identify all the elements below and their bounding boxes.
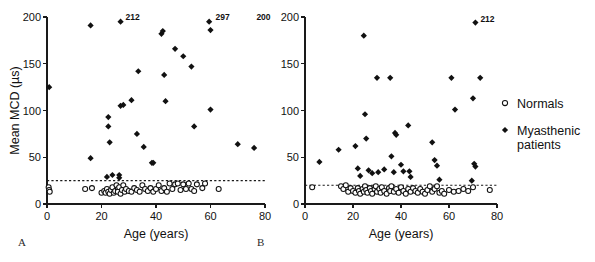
panel-letter-b: B <box>257 236 264 248</box>
x-tick-label: 80 <box>491 210 503 222</box>
data-point-myasthenic <box>104 174 110 180</box>
data-point-myasthenic <box>117 19 123 25</box>
data-point-normal <box>194 182 199 187</box>
point-annotation: 212 <box>480 14 494 24</box>
data-point-myasthenic <box>188 63 194 69</box>
data-point-myasthenic <box>469 178 475 184</box>
y-tick-label: 150 <box>23 58 41 70</box>
data-point-myasthenic <box>406 168 412 174</box>
data-point-normal <box>461 187 466 192</box>
data-point-myasthenic <box>391 169 397 175</box>
data-point-myasthenic <box>374 75 380 81</box>
data-point-normal <box>203 181 208 186</box>
series-myasthenic <box>316 20 483 184</box>
data-point-myasthenic <box>172 46 178 52</box>
data-point-myasthenic <box>141 144 147 150</box>
panel-letter-a: A <box>18 236 26 248</box>
data-point-myasthenic <box>207 106 213 112</box>
data-point-myasthenic <box>361 33 367 39</box>
panel-a: 050100150200020406080212297200Age (years… <box>8 11 271 241</box>
x-tick-label: 80 <box>259 210 271 222</box>
data-point-normal <box>186 181 191 186</box>
data-point-normal <box>181 182 186 187</box>
data-point-myasthenic <box>405 122 411 128</box>
data-point-normal <box>216 187 221 192</box>
y-axis-title: Mean MCD (µs) <box>8 66 22 154</box>
y-tick-label: 0 <box>293 198 299 210</box>
data-point-myasthenic <box>180 53 186 59</box>
data-point-normal <box>466 188 471 193</box>
data-point-myasthenic <box>408 174 414 180</box>
y-tick-label: 100 <box>23 105 41 117</box>
point-annotation: 200 <box>256 12 270 22</box>
data-point-myasthenic <box>316 159 322 165</box>
panel-b: 050100150200020406080212Age (years) <box>281 11 503 241</box>
data-point-myasthenic <box>128 97 134 103</box>
data-point-normal <box>447 187 452 192</box>
data-point-myasthenic <box>207 27 213 33</box>
x-axis-title: Age (years) <box>369 227 434 241</box>
data-point-myasthenic <box>470 95 476 101</box>
data-point-myasthenic <box>375 169 381 175</box>
legend-label-normals: Normals <box>517 97 564 111</box>
data-point-myasthenic <box>387 75 393 81</box>
legend-label-myasthenic-line2: patients <box>517 138 561 152</box>
data-point-myasthenic <box>107 139 113 145</box>
data-point-myasthenic <box>472 20 478 26</box>
x-axis-title: Age (years) <box>124 227 189 241</box>
data-point-normal <box>167 181 172 186</box>
y-tick-label: 200 <box>23 11 41 23</box>
y-tick-label: 200 <box>281 11 299 23</box>
data-point-normal <box>471 185 476 190</box>
data-point-myasthenic <box>355 165 361 171</box>
data-point-normal <box>310 185 315 190</box>
data-point-normal <box>200 186 205 191</box>
x-tick-label: 40 <box>150 210 162 222</box>
data-point-normal <box>451 189 456 194</box>
data-point-myasthenic <box>336 147 342 153</box>
y-tick-label: 0 <box>35 198 41 210</box>
y-tick-label: 100 <box>281 105 299 117</box>
data-point-myasthenic <box>381 166 387 172</box>
data-point-myasthenic <box>105 123 111 129</box>
legend-label-myasthenic: Myasthenic <box>517 124 580 138</box>
y-tick-label: 150 <box>281 58 299 70</box>
x-tick-label: 0 <box>44 210 50 222</box>
data-point-myasthenic <box>357 173 363 179</box>
data-point-normal <box>178 187 183 192</box>
y-tick-label: 50 <box>29 151 41 163</box>
series-myasthenic <box>46 19 257 181</box>
data-point-normal <box>183 187 188 192</box>
data-point-normal <box>156 183 161 188</box>
x-tick-label: 60 <box>443 210 455 222</box>
point-annotation: 297 <box>216 12 230 22</box>
data-point-normal <box>487 187 492 192</box>
x-tick-label: 20 <box>347 210 359 222</box>
x-tick-label: 20 <box>95 210 107 222</box>
data-point-normal <box>389 184 394 189</box>
data-point-normal <box>47 189 52 194</box>
legend-marker-myasthenic <box>502 127 508 133</box>
data-point-myasthenic <box>135 68 141 74</box>
data-point-myasthenic <box>109 172 115 178</box>
data-point-normal <box>427 184 432 189</box>
data-point-myasthenic <box>388 153 394 159</box>
data-point-myasthenic <box>432 157 438 163</box>
x-tick-label: 0 <box>302 210 308 222</box>
data-point-normal <box>343 183 348 188</box>
data-point-normal <box>89 186 94 191</box>
data-point-myasthenic <box>400 168 406 174</box>
figure-container: 050100150200020406080212297200Age (years… <box>0 0 595 262</box>
scatter-figure-svg: 050100150200020406080212297200Age (years… <box>0 0 595 262</box>
data-point-myasthenic <box>251 145 257 151</box>
data-point-myasthenic <box>134 131 140 137</box>
axis-lines <box>47 17 265 204</box>
data-point-normal <box>435 184 440 189</box>
data-point-myasthenic <box>88 155 94 161</box>
series-normals <box>46 181 221 196</box>
data-point-myasthenic <box>436 177 442 183</box>
data-point-myasthenic <box>191 123 197 129</box>
x-tick-label: 40 <box>395 210 407 222</box>
data-point-myasthenic <box>105 114 111 120</box>
data-point-normal <box>164 189 169 194</box>
